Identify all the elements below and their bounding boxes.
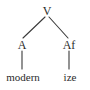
tree-leaf-right: ize — [64, 72, 77, 83]
tree-node-root: V — [43, 5, 52, 17]
edge-root-to-right — [49, 17, 68, 38]
tree-node-right: Af — [63, 39, 76, 51]
syntax-tree-figure: V A Af modern ize — [0, 0, 90, 90]
edge-root-to-left — [23, 17, 45, 38]
tree-node-left: A — [18, 39, 27, 51]
tree-leaf-left: modern — [6, 72, 40, 83]
